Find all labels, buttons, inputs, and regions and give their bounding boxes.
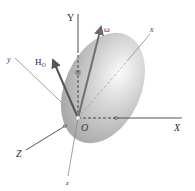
- x-label: x: [149, 25, 154, 34]
- ellipsoid-body: [45, 20, 162, 157]
- origin-point: [76, 116, 80, 120]
- rigid-body-rotation-diagram: Y X Z x y z ω HO O: [0, 0, 195, 191]
- y-label: y: [6, 55, 11, 64]
- X-label: X: [173, 122, 181, 133]
- HO-label-subscript: O: [42, 62, 47, 68]
- origin-label: O: [81, 122, 88, 133]
- Y-label: Y: [67, 12, 74, 23]
- HO-label: HO: [35, 57, 47, 68]
- Z-label: Z: [16, 148, 22, 159]
- z-label: z: [65, 179, 69, 187]
- omega-label: ω: [104, 25, 110, 34]
